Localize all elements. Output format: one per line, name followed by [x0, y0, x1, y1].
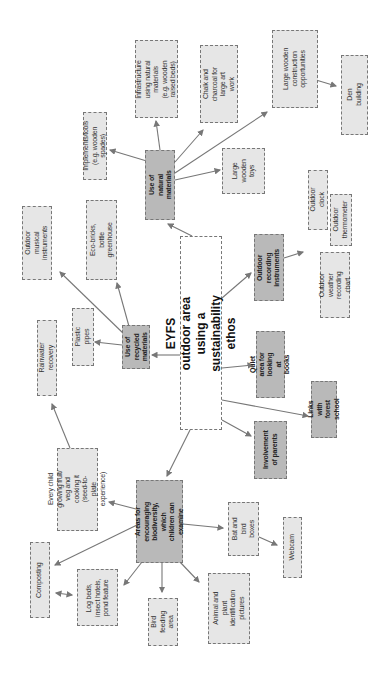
leaf-label: Bat and bird boxes — [231, 515, 257, 544]
hub-label: Outdoor recording instruments — [256, 249, 282, 287]
leaf-label: Implements/tools (e.g. wooden spades) — [82, 121, 108, 171]
leaf-label: Every child growing fruit/ veg and cooki… — [47, 470, 107, 509]
leaf-label: Infrastructure using natural materials (… — [135, 59, 178, 100]
hub-outdoor-recording: Outdoor recording instruments — [254, 234, 284, 301]
leaf-label: Chalk and charcoal for large art work — [202, 66, 236, 102]
leaf-rainwater-recovery: Rainwater recovery — [37, 320, 57, 396]
leaf-plastic-pipes: Plastic pipes — [72, 308, 94, 366]
leaf-label: Rainwater recovery — [38, 343, 55, 373]
central-node: EYFS outdoor area using a sustainability… — [180, 236, 222, 430]
leaf-outdoor-thermometer: Outdoor thermometer — [330, 194, 352, 246]
hub-biodiversity: Areas for encouraging biodiversity, whic… — [136, 480, 183, 563]
leaf-den-building: Den building — [341, 55, 368, 135]
leaf-label: Large wooden toys — [231, 158, 257, 184]
hub-label: Quiet area for looking at books — [249, 351, 292, 378]
hub-involvement-of-parents: Involvement of parents — [254, 421, 287, 479]
leaf-label: Animal and plant identification pictures — [212, 589, 246, 629]
leaf-chalk: Chalk and charcoal for large art work — [200, 45, 238, 123]
leaf-label: Outdoor musical instruments — [24, 226, 50, 260]
leaf-label: Outdoor thermometer — [332, 201, 349, 238]
leaf-label: Outdoor weather recording chart — [318, 271, 352, 299]
leaf-weather-chart: Outdoor weather recording chart — [320, 252, 350, 318]
hub-label: Links with forest school — [307, 398, 341, 422]
leaf-label: Eco-bricks, bottle greenhouse — [89, 223, 115, 258]
hub-label: Involvement of parents — [262, 431, 279, 470]
hub-quiet-area: Quiet area for looking at books — [256, 331, 285, 398]
leaf-implements: Implements/tools (e.g. wooden spades) — [83, 112, 107, 180]
leaf-wooden-toys: Large wooden toys — [222, 148, 265, 194]
leaf-label: Plastic pipes — [74, 327, 91, 347]
leaf-musical-instruments: Outdoor musical instruments — [22, 206, 52, 280]
hub-label: Use of recycled materials — [123, 333, 149, 362]
hub-label: Areas for encouraging biodiversity, whic… — [134, 499, 186, 544]
leaf-label: Webcam — [288, 534, 297, 560]
leaf-log-beds: Log beds, insect hotels, pond feature — [77, 569, 118, 626]
central-node-label: EYFS outdoor area using a sustainability… — [164, 295, 239, 372]
leaf-label: Outdoor clock — [309, 188, 326, 212]
leaf-bat-bird-boxes: Bat and bird boxes — [228, 502, 259, 556]
leaf-webcam: Webcam — [283, 517, 302, 578]
hub-forest-school: Links with forest school — [311, 381, 337, 438]
leaf-animal-plant-pictures: Animal and plant identification pictures — [208, 573, 250, 644]
leaf-wooden-construction: Large wooden construction opportunities — [272, 30, 318, 108]
leaf-infrastructure: Infrastructure using natural materials (… — [135, 40, 178, 118]
hub-label: Use of natural materials — [147, 171, 173, 200]
leaf-bird-feeding: Bird feeding area — [148, 598, 178, 646]
hub-recycled-materials: Use of recycled materials — [122, 325, 150, 369]
leaf-label: Composting — [36, 562, 45, 597]
leaf-label: Log beds, insect hotels, pond feature — [85, 578, 111, 617]
leaf-composting: Composting — [30, 542, 50, 618]
leaf-outdoor-clock: Outdoor clock — [308, 170, 328, 230]
leaf-label: Den building — [346, 83, 363, 108]
leaf-label: Large wooden construction opportunities — [282, 47, 308, 91]
leaf-eco-bricks: Eco-bricks, bottle greenhouse — [86, 200, 117, 280]
leaf-every-child-growing: Every child growing fruit/ veg and cooki… — [57, 448, 98, 531]
hub-natural-materials: Use of natural materials — [145, 150, 175, 220]
leaf-label: Bird feeding area — [150, 608, 176, 636]
mind-map-diagram: EYFS outdoor area using a sustainability… — [0, 0, 372, 678]
